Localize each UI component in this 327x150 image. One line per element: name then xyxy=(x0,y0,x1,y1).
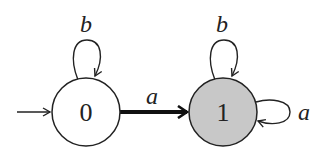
transition-label: a xyxy=(298,99,310,125)
state-1: 1 xyxy=(189,78,257,146)
transition-label: b xyxy=(80,11,92,37)
transition-0-1-a: a xyxy=(120,83,187,112)
state-0: 0 xyxy=(52,78,120,146)
transition-1-1-b: b xyxy=(210,11,237,80)
transition-1-1-a: a xyxy=(256,99,310,125)
transition-label: b xyxy=(216,11,228,37)
transition-label: a xyxy=(146,83,158,109)
state-label: 1 xyxy=(217,98,230,127)
state-label: 0 xyxy=(80,98,93,127)
transition-0-0-b: b xyxy=(73,11,100,80)
automaton-diagram: b a b a 0 1 xyxy=(0,0,327,150)
